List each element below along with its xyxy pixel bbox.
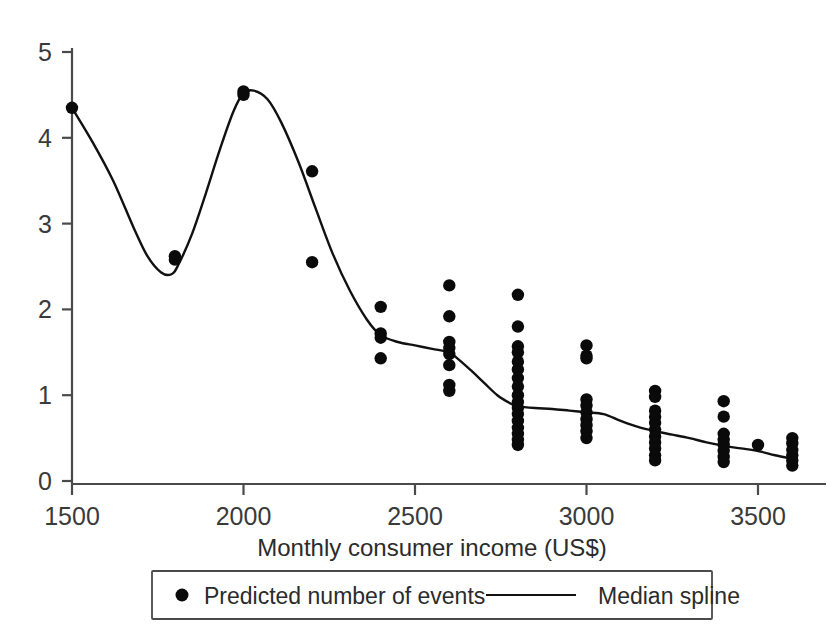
data-point xyxy=(169,253,181,265)
data-point xyxy=(512,289,524,301)
data-point xyxy=(718,395,730,407)
data-point xyxy=(443,310,455,322)
dot-marker-icon xyxy=(176,589,189,602)
chart-legend: Predicted number of events Median spline xyxy=(152,571,740,619)
scatter-plot-canvas: 012345 15002000250030003500 Monthly cons… xyxy=(0,0,836,635)
y-tick-label-5: 5 xyxy=(38,38,52,66)
data-point xyxy=(375,352,387,364)
data-point xyxy=(443,279,455,291)
legend-label-median-spline: Median spline xyxy=(598,583,740,609)
y-tick-label-2: 2 xyxy=(38,295,52,323)
legend-label-predicted-events: Predicted number of events xyxy=(204,583,485,609)
x-tick-label-2500: 2500 xyxy=(387,502,443,530)
data-point xyxy=(786,459,798,471)
data-point xyxy=(649,391,661,403)
y-tick-label-0: 0 xyxy=(38,467,52,495)
data-point xyxy=(66,102,78,114)
data-point xyxy=(443,385,455,397)
data-point xyxy=(580,352,592,364)
y-tick-label-3: 3 xyxy=(38,210,52,238)
data-point xyxy=(512,439,524,451)
x-tick-label-3500: 3500 xyxy=(730,502,786,530)
data-point xyxy=(306,256,318,268)
y-tick-label-4: 4 xyxy=(38,124,52,152)
data-point xyxy=(375,301,387,313)
data-point xyxy=(580,432,592,444)
data-point xyxy=(718,410,730,422)
x-tick-label-3000: 3000 xyxy=(559,502,615,530)
y-tick-label-1: 1 xyxy=(38,381,52,409)
x-tick-label-1500: 1500 xyxy=(44,502,100,530)
chart-figure: 012345 15002000250030003500 Monthly cons… xyxy=(0,0,836,635)
x-tick-label-2000: 2000 xyxy=(216,502,272,530)
x-axis-title: Monthly consumer income (US$) xyxy=(257,534,606,561)
data-point xyxy=(306,165,318,177)
data-point xyxy=(443,348,455,360)
data-point xyxy=(375,332,387,344)
data-point xyxy=(649,454,661,466)
data-point xyxy=(752,439,764,451)
data-point xyxy=(237,89,249,101)
data-point xyxy=(512,320,524,332)
data-point xyxy=(443,359,455,371)
data-point xyxy=(718,456,730,468)
